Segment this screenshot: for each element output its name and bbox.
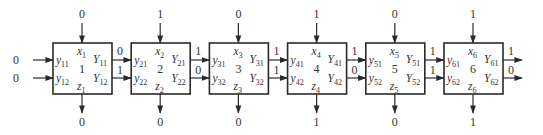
bottom-output-value: 0 — [235, 115, 241, 129]
cell-number: 5 — [392, 62, 398, 76]
left-input-value-2: 0 — [13, 71, 19, 85]
left-input-value-1: 0 — [13, 53, 19, 67]
bottom-output-value: 0 — [392, 115, 398, 129]
cell-number: 4 — [314, 62, 320, 76]
top-input-value: 0 — [235, 7, 241, 21]
right-output-value-2: 0 — [195, 63, 201, 77]
bottom-output-value: 1 — [470, 115, 476, 129]
right-output-value-1: 0 — [117, 44, 123, 58]
stage-1: 0 0 0 x1 1 z1 y11 y12 Y11 Y12 0 0 1 — [13, 7, 131, 129]
right-output-value-2: 1 — [117, 63, 123, 77]
bottom-output-value: 0 — [79, 115, 85, 129]
cell-chain-diagram: 0 0 0 x1 1 z1 y11 y12 Y11 Y12 0 0 1 1 x2… — [0, 0, 543, 135]
cell-number: 2 — [157, 62, 163, 76]
bottom-output-value: 1 — [314, 115, 320, 129]
top-input-value: 0 — [392, 7, 398, 21]
stage-3: 0 x3 3 z3 y31 y32 Y31 Y32 0 1 1 — [209, 7, 287, 129]
right-output-value-2: 0 — [508, 63, 514, 77]
top-input-value: 0 — [79, 7, 85, 21]
right-output-value-2: 1 — [273, 63, 279, 77]
right-output-value-1: 1 — [352, 44, 358, 58]
top-input-value: 1 — [157, 7, 163, 21]
right-output-value-2: 1 — [430, 63, 436, 77]
cell-number: 1 — [79, 62, 85, 76]
right-output-value-2: 0 — [352, 63, 358, 77]
top-input-value: 1 — [314, 7, 320, 21]
stage-2: 1 x2 2 z2 y21 y22 Y21 Y22 0 1 0 — [131, 7, 209, 129]
cell-number: 6 — [470, 62, 476, 76]
right-output-value-1: 1 — [195, 44, 201, 58]
stage-5: 0 x5 5 z5 y51 y52 Y51 Y52 0 1 1 — [366, 7, 444, 129]
bottom-output-value: 0 — [157, 115, 163, 129]
right-output-value-1: 1 — [273, 44, 279, 58]
cell-number: 3 — [235, 62, 241, 76]
right-output-value-1: 1 — [430, 44, 436, 58]
stage-6: 1 x6 6 z6 y61 y62 Y61 Y62 1 1 0 — [444, 7, 522, 129]
top-input-value: 1 — [470, 7, 476, 21]
right-output-value-1: 1 — [508, 44, 514, 58]
stage-4: 1 x4 4 z4 y41 y42 Y41 Y42 1 1 0 — [288, 7, 366, 129]
